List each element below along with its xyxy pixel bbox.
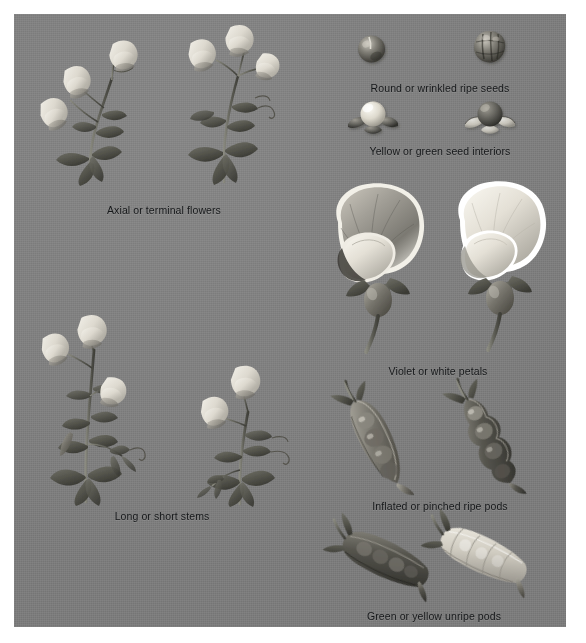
seed-interior-yellow-illustration [344,97,402,137]
blossom-violet-illustration [316,178,442,368]
pea-plant-short-stem-illustration [182,362,307,507]
figure-seed-shape: Round or wrinkled ripe seeds [314,14,566,98]
pea-shoot-terminal-illustration [162,24,292,189]
caption-stem-length: Long or short stems [14,510,310,522]
pod-yellow-illustration [422,516,542,602]
figure-stem-length: Long or short stems [14,310,310,530]
figure-pod-color: Green or yellow unripe pods [302,514,566,627]
blossom-white-illustration [438,176,564,366]
figure-pod-shape: Inflated or pinched ripe pods [314,386,566,516]
caption-flower-position: Axial or terminal flowers [14,204,314,216]
illustration-plate: Axial or terminal flowers [14,14,566,627]
caption-seed-color: Yellow or green seed interiors [314,145,566,157]
caption-pod-color: Green or yellow unripe pods [302,610,566,622]
seed-interior-green-illustration [461,97,519,137]
pea-plant-long-stem-illustration [30,316,160,506]
figure-flower-color: Violet or white petals [310,174,566,389]
caption-flower-color: Violet or white petals [310,365,566,377]
pod-pinched-illustration [444,386,536,506]
seed-wrinkled-illustration [471,28,509,66]
figure-flower-position: Axial or terminal flowers [14,14,314,224]
seed-round-illustration [355,32,389,66]
pod-inflated-illustration [332,388,424,508]
figure-seed-color: Yellow or green seed interiors [314,88,566,166]
pea-shoot-axial-illustration [32,26,152,186]
